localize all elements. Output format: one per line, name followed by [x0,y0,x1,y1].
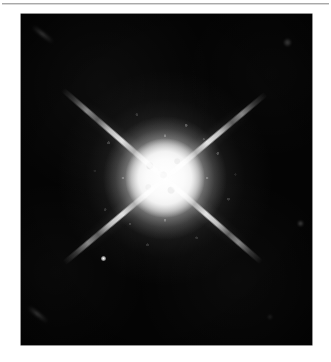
artifact-bottom-right-spot [267,314,273,320]
astronomical-image-panel [21,14,312,345]
artifact-top-left-streak [32,25,54,43]
artifact-bottom-left-streak [28,306,49,323]
artifact-top-right-spot [283,38,292,47]
artifact-right-edge-spot [297,220,304,227]
star-core-mottling [127,140,203,216]
companion-point-source [101,256,106,261]
horizontal-rule-shadow [2,4,329,5]
figure-page [0,0,331,362]
